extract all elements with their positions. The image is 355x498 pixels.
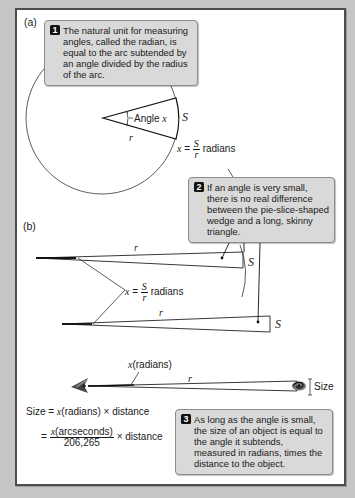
radian-formula-b: x = Sr radians (125, 282, 183, 303)
callout-1-badge: 1 (50, 25, 60, 35)
radian-formula-a: x = Sr radians (177, 139, 235, 160)
size-equation-2: = x(arcseconds)206,265 × distance (41, 427, 163, 448)
callout-3: 3 As long as the angle is small, the siz… (175, 409, 333, 475)
arc-label-b-bottom: S (275, 317, 281, 332)
label-a: (a) (24, 16, 37, 28)
leader-2-up (228, 169, 233, 177)
callout-3-badge: 3 (181, 414, 191, 424)
callout-1: 1 The natural unit for measuring angles,… (44, 20, 198, 86)
radius-label-r: r (129, 132, 133, 143)
radius-label-b-top: r (134, 242, 138, 253)
callout-2-text: If an angle is very small, there is no r… (207, 182, 329, 237)
radius-label-b-bottom: r (159, 307, 163, 318)
size-label: Size (314, 381, 333, 392)
galaxy-icon (292, 382, 306, 391)
callout-1-text: The natural unit for measuring angles, c… (63, 25, 188, 80)
angle-label-c: x(radians) (128, 359, 172, 370)
callout-2: 2 If an angle is very small, there is no… (188, 177, 335, 243)
callout-3-text: As long as the angle is small, the size … (194, 414, 323, 469)
eye-icon (71, 378, 88, 393)
radius-label-c: r (188, 373, 192, 384)
angle-label: Angle x (134, 113, 167, 124)
arc-label-b-top: S (248, 255, 254, 270)
size-bracket (308, 379, 312, 395)
wedge-b-top (36, 252, 243, 268)
label-b: (b) (23, 220, 36, 232)
callout-2-badge: 2 (194, 182, 204, 192)
leader-2-bottom (258, 243, 260, 322)
arc-label-s: S (182, 110, 188, 125)
size-equation-1: Size = x(radians) × distance (26, 406, 149, 417)
